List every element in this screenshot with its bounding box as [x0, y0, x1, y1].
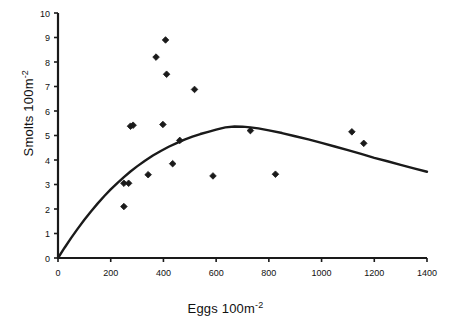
x-axis-tick-label: 1400 [417, 268, 437, 278]
axis-ticks-group [54, 13, 427, 262]
x-axis-tick-label: 1200 [364, 268, 384, 278]
y-axis-tick-label: 1 [45, 229, 50, 239]
y-axis-tick-label: 0 [45, 254, 50, 264]
x-axis-title-exponent: -2 [255, 300, 263, 310]
y-axis-tick-label: 6 [45, 107, 50, 117]
y-axis-tick-label: 2 [45, 205, 50, 215]
data-point-marker [210, 173, 217, 180]
data-point-marker [125, 180, 132, 187]
scatter-plot-canvas: 0123456789100200400600800100012001400 [0, 0, 451, 331]
x-axis-tick-label: 600 [209, 268, 224, 278]
y-axis-tick-label: 3 [45, 180, 50, 190]
y-axis-tick-label: 10 [40, 9, 50, 19]
y-axis-tick-label: 5 [45, 131, 50, 141]
data-point-marker [163, 71, 170, 78]
data-point-marker [121, 203, 128, 210]
x-axis-tick-label: 800 [261, 268, 276, 278]
data-point-marker [349, 129, 356, 136]
data-point-marker [191, 86, 198, 93]
data-point-marker [169, 160, 176, 167]
data-point-marker [162, 37, 169, 44]
chart-figure: 0123456789100200400600800100012001400 Sm… [0, 0, 451, 331]
y-axis-tick-label: 8 [45, 58, 50, 68]
x-axis-tick-label: 0 [55, 268, 60, 278]
axes-group [58, 13, 427, 258]
data-point-marker [153, 54, 160, 61]
data-point-marker [272, 171, 279, 178]
y-axis-tick-label: 9 [45, 33, 50, 43]
y-axis-tick-label: 7 [45, 82, 50, 92]
x-axis-tick-label: 400 [156, 268, 171, 278]
y-axis-tick-label: 4 [45, 156, 50, 166]
x-axis-tick-label: 200 [103, 268, 118, 278]
y-axis-title: Smolts 100m-2 [20, 38, 36, 188]
x-axis-tick-label: 1000 [312, 268, 332, 278]
x-axis-title: Eggs 100m-2 [0, 300, 451, 316]
data-point-marker [360, 140, 367, 147]
y-axis-title-base: Smolts 100m [21, 78, 36, 156]
y-axis-title-exponent: -2 [20, 70, 30, 78]
data-point-marker [160, 121, 167, 128]
data-points-group [121, 37, 367, 210]
fitted-curve [58, 126, 427, 258]
x-axis-title-base: Eggs 100m [188, 301, 256, 316]
axis-tick-labels-group: 0123456789100200400600800100012001400 [40, 9, 437, 279]
data-point-marker [145, 171, 152, 178]
fitted-curve-line [58, 126, 427, 258]
